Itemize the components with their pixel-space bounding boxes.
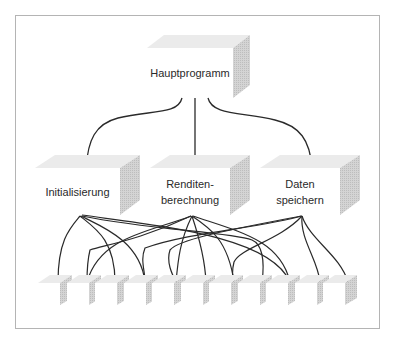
leaf-boxes [38, 275, 357, 305]
module-label-daten-speichern: Daten speichern [260, 168, 340, 215]
leaf-connectors [58, 215, 348, 282]
leaf-box [38, 275, 72, 305]
module-label-initialisierung: Initialisierung [35, 168, 120, 215]
module-label-renditenberechnung: Renditen- berechnung [150, 168, 230, 215]
root-label: Hauptprogramm [147, 48, 233, 98]
